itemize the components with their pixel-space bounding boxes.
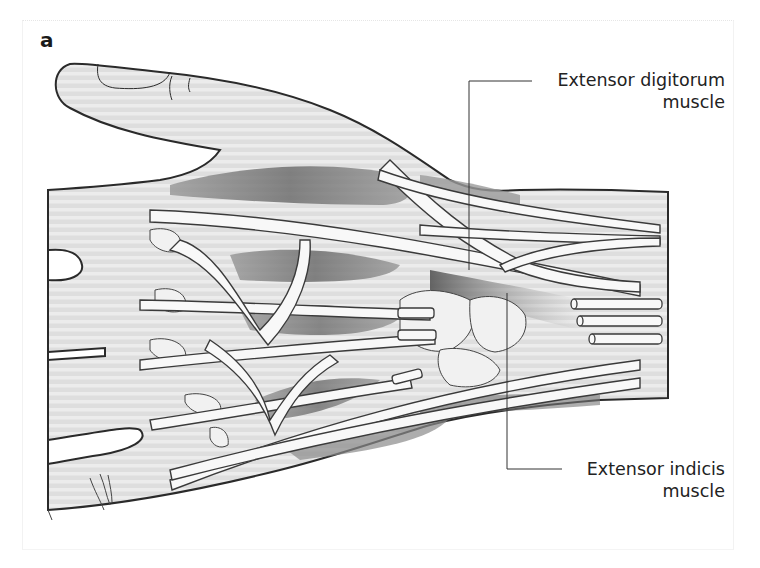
label-line-2: muscle <box>525 91 725 113</box>
panel-label: a <box>40 28 54 52</box>
label-extensor-digitorum-muscle: Extensor digitorum muscle <box>525 69 725 113</box>
label-extensor-indicis-muscle: Extensor indicis muscle <box>535 458 725 502</box>
label-line-1: Extensor indicis <box>535 458 725 480</box>
label-line-1: Extensor digitorum <box>525 69 725 91</box>
label-line-2: muscle <box>535 480 725 502</box>
